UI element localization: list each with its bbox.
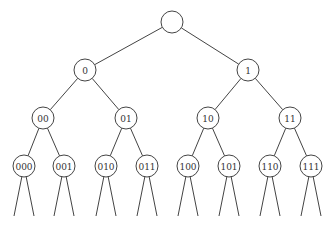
open-subtree-edge xyxy=(231,177,239,216)
tree-node-01: 01 xyxy=(115,107,137,129)
node-label: 0 xyxy=(82,66,88,76)
tree-edge xyxy=(28,128,39,156)
tree-edge xyxy=(255,78,283,109)
tree-node-001: 001 xyxy=(53,155,75,177)
tree-node-10: 10 xyxy=(197,107,219,129)
tree-edge xyxy=(181,28,238,64)
tree-node-101: 101 xyxy=(218,155,240,177)
open-subtree-edge xyxy=(149,177,157,216)
tree-node-110: 110 xyxy=(259,155,281,177)
tree-edge xyxy=(294,128,306,156)
open-subtree-edge xyxy=(108,177,116,216)
open-subtree-edge xyxy=(137,177,145,216)
tree-node-1: 1 xyxy=(237,59,259,81)
node-label: 11 xyxy=(284,114,295,124)
tree-edge xyxy=(92,78,119,109)
tree-edge xyxy=(212,128,224,156)
open-subtree-edge xyxy=(260,177,268,216)
node-label: 10 xyxy=(202,114,214,124)
node-label: 000 xyxy=(15,162,32,172)
tree-node-011: 011 xyxy=(136,155,158,177)
tree-edge xyxy=(192,128,204,156)
tree-node-100: 100 xyxy=(177,155,199,177)
node-label: 1 xyxy=(245,66,251,76)
open-subtree-edge xyxy=(301,177,309,216)
node-label: 010 xyxy=(97,162,114,172)
node-circle xyxy=(161,11,183,33)
node-label: 110 xyxy=(261,162,278,172)
tree-edge xyxy=(274,128,286,156)
binary-tree-diagram: 0100011011000001010011100101110111 xyxy=(0,0,331,225)
tree-node-0: 0 xyxy=(74,59,96,81)
node-label: 111 xyxy=(302,162,319,172)
open-subtree-edge xyxy=(14,177,22,216)
open-subtree-edge xyxy=(96,177,104,216)
tree-edge xyxy=(130,128,142,156)
open-subtree-edge xyxy=(219,177,227,216)
root-node xyxy=(161,11,183,33)
tree-edge xyxy=(47,128,59,156)
node-label: 01 xyxy=(120,114,131,124)
tree-node-11: 11 xyxy=(279,107,301,129)
tree-edge xyxy=(215,78,241,109)
tree-node-00: 00 xyxy=(32,107,54,129)
tree-edge xyxy=(50,78,78,109)
tree-node-000: 000 xyxy=(13,155,35,177)
tree-node-111: 111 xyxy=(300,155,322,177)
tree-svg: 0100011011000001010011100101110111 xyxy=(0,0,331,225)
node-label: 00 xyxy=(37,114,49,124)
node-label: 100 xyxy=(179,162,196,172)
open-subtree-edge xyxy=(313,177,321,216)
node-label: 001 xyxy=(55,162,72,172)
node-label: 011 xyxy=(138,162,155,172)
open-subtree-edge xyxy=(66,177,74,216)
tree-edge xyxy=(110,128,122,156)
node-label: 101 xyxy=(220,162,237,172)
open-subtree-edge xyxy=(54,177,62,216)
open-subtree-edge xyxy=(26,177,34,216)
open-subtree-edge xyxy=(272,177,280,216)
tree-node-010: 010 xyxy=(95,155,117,177)
tree-edge xyxy=(95,27,163,64)
open-subtree-edge xyxy=(178,177,186,216)
open-subtree-edge xyxy=(190,177,198,216)
